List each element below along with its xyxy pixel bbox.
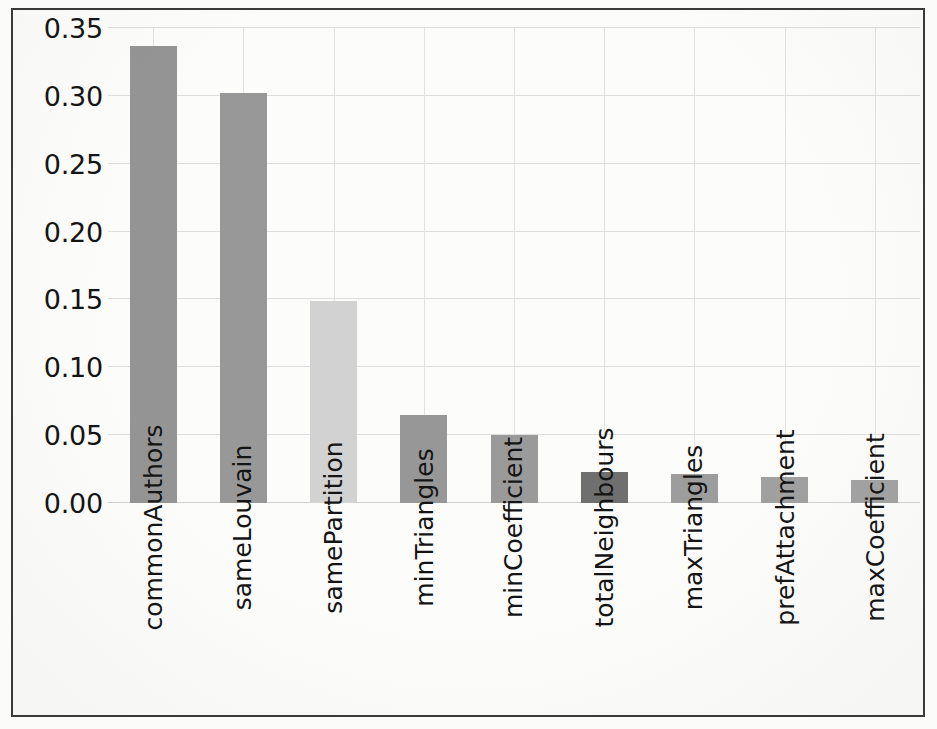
x-axis-tick-label-prefAttachment: prefAttachment bbox=[740, 509, 830, 719]
x-axis-tick-label-sameLouvain: sameLouvain bbox=[198, 509, 288, 719]
y-axis-tick-label: 0.20 bbox=[44, 219, 103, 246]
bar-sameLouvain bbox=[220, 93, 267, 503]
gridline-vertical bbox=[514, 28, 515, 503]
y-axis-tick-label: 0.00 bbox=[44, 490, 103, 517]
x-axis-tick-label-minCoefficient: minCoefficient bbox=[469, 509, 559, 719]
x-axis-tick-text: maxTriangles bbox=[682, 445, 707, 611]
x-axis-tick-text: commonAuthors bbox=[141, 424, 166, 630]
y-axis-tick-label: 0.30 bbox=[44, 83, 103, 110]
x-axis-tick-label-maxCoefficient: maxCoefficient bbox=[830, 509, 920, 719]
y-axis-tick-label: 0.15 bbox=[44, 286, 103, 313]
x-axis-tick-label-minTriangles: minTriangles bbox=[379, 509, 469, 719]
y-axis-tick-labels: 0.000.050.100.150.200.250.300.35 bbox=[31, 28, 103, 503]
y-axis-tick-label: 0.10 bbox=[44, 354, 103, 381]
gridline-vertical bbox=[875, 28, 876, 503]
x-axis-tick-text: totalNeighbours bbox=[592, 427, 617, 627]
x-axis-tick-labels: commonAuthorssameLouvainsamePartitionmin… bbox=[108, 509, 920, 719]
x-axis-tick-label-maxTriangles: maxTriangles bbox=[649, 509, 739, 719]
x-axis-tick-text: maxCoefficient bbox=[863, 434, 888, 623]
x-axis-tick-label-commonAuthors: commonAuthors bbox=[108, 509, 198, 719]
x-axis-tick-text: minTriangles bbox=[412, 448, 437, 606]
y-axis-tick-label: 0.25 bbox=[44, 151, 103, 178]
y-axis-tick-label: 0.05 bbox=[44, 422, 103, 449]
figure-frame: 0.000.050.100.150.200.250.300.35 commonA… bbox=[11, 8, 925, 717]
x-axis-tick-text: sameLouvain bbox=[231, 445, 256, 611]
x-axis-tick-text: minCoefficient bbox=[502, 437, 527, 618]
x-axis-tick-label-totalNeighbours: totalNeighbours bbox=[559, 509, 649, 719]
x-axis-tick-text: prefAttachment bbox=[773, 429, 798, 625]
x-axis-tick-text: samePartition bbox=[321, 441, 346, 613]
x-axis-tick-label-samePartition: samePartition bbox=[288, 509, 378, 719]
gridline-vertical bbox=[694, 28, 695, 503]
chart-figure: 0.000.050.100.150.200.250.300.35 commonA… bbox=[0, 0, 937, 729]
y-axis-tick-label: 0.35 bbox=[44, 15, 103, 42]
